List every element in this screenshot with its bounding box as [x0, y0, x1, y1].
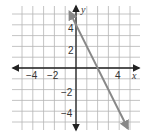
x-tick-4: 4 — [115, 70, 121, 81]
coordinate-graph: x y −4 −2 4 4 2 −2 −4 — [0, 0, 146, 140]
x-tick-neg2: −2 — [47, 70, 59, 81]
y-tick-neg4: −4 — [61, 108, 73, 119]
x-tick-neg4: −4 — [26, 70, 38, 81]
y-axis-label: y — [80, 4, 86, 15]
y-tick-2: 2 — [68, 45, 74, 56]
y-tick-4: 4 — [68, 23, 74, 34]
x-axis-label: x — [131, 70, 137, 81]
y-tick-neg2: −2 — [61, 87, 73, 98]
